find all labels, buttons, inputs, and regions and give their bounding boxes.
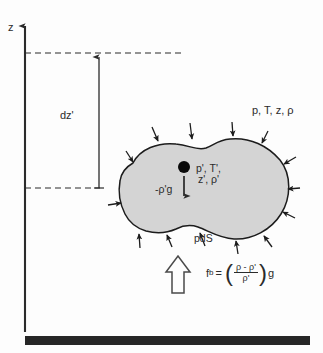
ground-bar: [25, 336, 310, 345]
pressure-arrow-3: [232, 122, 233, 136]
buoyancy-arrow: [166, 256, 190, 293]
pressure-arrow-6: [288, 188, 300, 189]
pressure-arrow-8: [264, 236, 272, 247]
gravity-symbol: g: [268, 267, 274, 279]
buoyancy-subscript: b: [209, 268, 213, 277]
pressure-arrow-4: [262, 131, 268, 143]
pressure-arrow-14: [126, 151, 133, 162]
weight-label: -ρ'g: [155, 184, 172, 195]
pressure-arrow-5: [284, 157, 296, 164]
air-parcel-blob: [119, 139, 289, 239]
buoyancy-diagram: z dz' p, T, z, ρ p', T', z', ρ' -ρ'g pdS…: [0, 0, 323, 353]
dz-measure-arrow: [94, 57, 104, 188]
parcel-properties-line2: z', ρ': [198, 174, 221, 185]
parcel-outline: [119, 139, 289, 239]
fraction-denominator: ρ': [241, 273, 252, 283]
buoyancy-equals: =: [216, 267, 222, 279]
ambient-properties-label: p, T, z, ρ: [252, 105, 294, 117]
open-paren: (: [225, 263, 233, 282]
buoyancy-arrow-shape: [166, 256, 190, 293]
close-paren: ): [259, 263, 267, 282]
pressure-arrow-1: [152, 127, 158, 141]
parcel-center-dot: [178, 161, 190, 173]
dz-label: dz': [60, 110, 74, 122]
pressure-arrow-2: [190, 123, 192, 139]
buoyancy-equation: fb = ( ρ - ρ' ρ' ) g: [206, 262, 274, 284]
ground-surface: [25, 336, 310, 345]
pressure-arrow-13: [108, 203, 121, 205]
parcel-properties-label: p', T', z', ρ': [196, 163, 221, 185]
pressure-arrow-12: [139, 234, 140, 248]
surface-pressure-label: pdS: [194, 233, 213, 244]
fraction-numerator: ρ - ρ': [234, 262, 258, 272]
pressure-arrow-7: [283, 212, 295, 218]
buoyancy-fraction: ρ - ρ' ρ': [234, 262, 258, 284]
pressure-arrow-9: [236, 241, 238, 254]
z-axis-label: z: [8, 22, 14, 34]
pressure-arrow-11: [167, 235, 172, 247]
diagram-canvas: [0, 0, 323, 353]
